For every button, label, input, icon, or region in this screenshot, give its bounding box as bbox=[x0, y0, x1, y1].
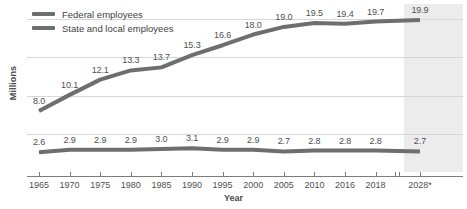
y-axis-title: Millions bbox=[8, 53, 18, 113]
x-axis-tick-label: 1970 bbox=[60, 180, 80, 190]
x-axis-tick-label: 1965 bbox=[29, 180, 49, 190]
x-axis-tick-label: 1990 bbox=[182, 180, 202, 190]
point-label: 18.0 bbox=[245, 20, 262, 30]
point-label: 3.0 bbox=[155, 134, 167, 144]
x-axis-tick bbox=[376, 172, 377, 177]
x-axis-tick bbox=[70, 172, 71, 177]
x-axis-tick-label: 1975 bbox=[90, 180, 110, 190]
legend-swatch-icon bbox=[32, 12, 55, 16]
x-axis-tick-label: 2028* bbox=[408, 180, 432, 190]
x-axis-tick-label: 2010 bbox=[304, 180, 324, 190]
point-label: 19.0 bbox=[275, 12, 292, 22]
x-axis-tick bbox=[314, 172, 315, 177]
point-label: 2.9 bbox=[63, 135, 75, 145]
point-label: 13.7 bbox=[153, 52, 170, 62]
point-label: 12.1 bbox=[92, 65, 109, 75]
x-axis-tick-label: 2018 bbox=[366, 180, 386, 190]
point-label: 2.8 bbox=[369, 136, 381, 146]
point-label: 2.9 bbox=[125, 135, 137, 145]
point-label: 2.7 bbox=[278, 136, 290, 146]
point-label: 16.6 bbox=[214, 30, 231, 40]
x-axis-tick bbox=[100, 172, 101, 177]
x-axis-tick bbox=[223, 172, 224, 177]
x-axis-line bbox=[27, 176, 463, 177]
chart-legend: Federal employeesState and local employe… bbox=[32, 8, 173, 36]
x-axis-tick-label: 1995 bbox=[213, 180, 233, 190]
x-axis-tick bbox=[39, 172, 40, 177]
x-axis-tick-label: 1985 bbox=[151, 180, 171, 190]
point-label: 2.9 bbox=[94, 135, 106, 145]
series-line-federal bbox=[39, 148, 420, 152]
point-label: 10.1 bbox=[61, 80, 78, 90]
x-axis-tick bbox=[161, 172, 162, 177]
point-label: 2.8 bbox=[339, 136, 351, 146]
point-label: 3.1 bbox=[186, 133, 198, 143]
x-axis-tick bbox=[131, 172, 132, 177]
point-label: 2.8 bbox=[308, 136, 320, 146]
x-axis-tick bbox=[420, 172, 421, 177]
point-label: 19.7 bbox=[367, 7, 384, 17]
x-axis-tick bbox=[253, 172, 254, 177]
x-axis-tick bbox=[345, 172, 346, 177]
legend-item[interactable]: State and local employees bbox=[32, 22, 173, 34]
point-label: 19.9 bbox=[411, 5, 428, 15]
point-label: 2.9 bbox=[247, 135, 259, 145]
x-axis-tick bbox=[192, 172, 193, 177]
x-axis-tick-label: 1980 bbox=[121, 180, 141, 190]
legend-label: Federal employees bbox=[62, 9, 143, 20]
chart-container: Millions 8.010.112.113.313.715.316.618.0… bbox=[0, 0, 467, 209]
point-label: 2.9 bbox=[216, 135, 228, 145]
point-label: 2.6 bbox=[33, 137, 45, 147]
legend-label: State and local employees bbox=[62, 23, 173, 34]
axis-break-mark bbox=[399, 172, 400, 177]
x-axis-tick-label: 2000 bbox=[243, 180, 263, 190]
axis-break-mark bbox=[395, 172, 396, 177]
point-label: 2.7 bbox=[414, 136, 426, 146]
x-axis-tick bbox=[284, 172, 285, 177]
point-label: 13.3 bbox=[122, 55, 139, 65]
x-axis-tick-label: 2016 bbox=[335, 180, 355, 190]
point-label: 15.3 bbox=[183, 40, 200, 50]
x-axis-tick-label: 2005 bbox=[274, 180, 294, 190]
legend-item[interactable]: Federal employees bbox=[32, 8, 173, 20]
legend-swatch-icon bbox=[32, 26, 55, 30]
point-label: 19.5 bbox=[306, 8, 323, 18]
x-axis-title: Year bbox=[0, 193, 467, 203]
point-label: 8.0 bbox=[33, 96, 45, 106]
point-label: 19.4 bbox=[336, 9, 353, 19]
